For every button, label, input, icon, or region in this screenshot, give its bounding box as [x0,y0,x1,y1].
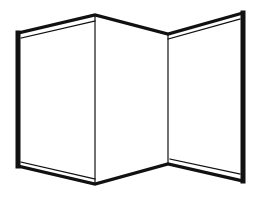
middle-panel [95,16,168,183]
right-panel [168,14,243,180]
folding-screen-drawing: three-panel folding screen line drawing [0,0,257,203]
folding-screen-svg [0,0,257,203]
left-panel [18,16,95,183]
